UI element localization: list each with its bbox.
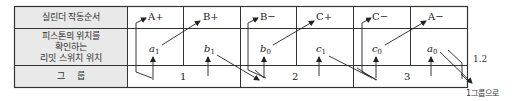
sequence-a-plus: A+: [148, 11, 164, 22]
cascade-sequence-diagram: 실린더 작동순서 피스톤의 위치를 확인하는 리밋 스위치 위치 그 룹: [0, 0, 517, 101]
limit-switch-sub: 1: [155, 48, 159, 56]
limit-switch-a1: a1: [149, 43, 159, 58]
limit-switch-sub: 0: [266, 48, 270, 56]
limit-switch-b1: b1: [204, 43, 215, 58]
limit-switch-a0: a0: [427, 43, 437, 58]
limit-switch-sub: 1: [322, 48, 326, 56]
transition-label: 1.2: [473, 54, 487, 64]
limit-switch-c1: c1: [316, 43, 326, 58]
group-2: 2: [292, 71, 298, 82]
sequence-c-minus: C−: [372, 11, 388, 22]
sequence-a-minus: A−: [428, 11, 444, 22]
sequence-c-plus: C+: [316, 11, 332, 22]
limit-switch-b0: b0: [260, 43, 271, 58]
return-to-group-1-note: 1그룹으로: [466, 87, 499, 98]
limit-switch-sub: 0: [378, 48, 382, 56]
group-3: 3: [404, 71, 410, 82]
sequence-b-plus: B+: [203, 11, 219, 22]
limit-switch-c0: c0: [372, 43, 382, 58]
sequence-b-minus: B−: [260, 11, 276, 22]
group-1: 1: [180, 71, 186, 82]
limit-switch-sub: 1: [210, 48, 214, 56]
limit-switch-sub: 0: [433, 48, 437, 56]
